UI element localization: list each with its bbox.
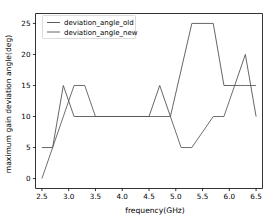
y-tick-label: 15 — [21, 81, 30, 90]
x-tick-label: 2.5 — [36, 192, 47, 201]
x-tick-label: 5.5 — [197, 192, 208, 201]
axes-frame — [36, 14, 263, 189]
x-axis-title: frequency(GHz) — [125, 206, 185, 215]
y-axis-title: maximum gain deviation angle(deg) — [4, 35, 13, 174]
line-chart: 2.53.03.54.04.55.05.56.06.5 0510152025 d… — [0, 0, 279, 218]
y-tick-label: 5 — [26, 143, 31, 152]
y-tick-label: 20 — [21, 50, 31, 59]
y-tick-label: 25 — [21, 19, 30, 28]
x-tick-label: 4.0 — [117, 192, 129, 201]
plot-border — [36, 14, 263, 189]
x-tick-label: 3.0 — [63, 192, 75, 201]
x-axis-ticks: 2.53.03.54.04.55.05.56.06.5 — [36, 189, 262, 202]
chart-legend: deviation_angle_olddeviation_angle_new — [43, 16, 138, 39]
x-tick-label: 6.5 — [250, 192, 261, 201]
x-tick-label: 5.0 — [170, 192, 182, 201]
data-series-group — [42, 23, 256, 178]
legend-label-1: deviation_angle_new — [64, 29, 138, 37]
y-tick-label: 10 — [21, 112, 31, 121]
x-tick-label: 3.5 — [90, 192, 101, 201]
x-tick-label: 6.0 — [224, 192, 236, 201]
x-tick-label: 4.5 — [143, 192, 154, 201]
chart-figure: 2.53.03.54.04.55.05.56.06.5 0510152025 d… — [0, 0, 279, 218]
y-tick-label: 0 — [26, 174, 31, 183]
y-axis-ticks: 0510152025 — [21, 19, 35, 183]
series-line-1 — [42, 85, 256, 178]
legend-label-0: deviation_angle_old — [64, 19, 134, 27]
